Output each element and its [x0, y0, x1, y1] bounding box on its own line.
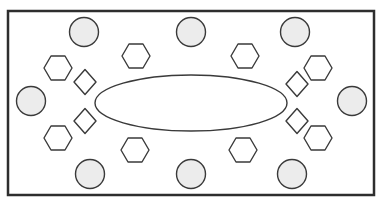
hexagon-shape-3 [231, 44, 259, 68]
hexagon-shape-8 [304, 126, 332, 150]
circle-shape-8 [278, 160, 307, 189]
circle-shape-3 [281, 18, 310, 47]
circle-shape-6 [76, 160, 105, 189]
circle-shape-2 [177, 18, 206, 47]
hexagon-shape-6 [121, 138, 149, 162]
circle-shape-7 [177, 160, 206, 189]
circle-shape-1 [70, 18, 99, 47]
central-ellipse-table [95, 75, 287, 131]
circle-shape-4 [17, 87, 46, 116]
hexagon-shape-7 [229, 138, 257, 162]
hexagon-shape-4 [304, 56, 332, 80]
seating-diagram [0, 0, 389, 205]
hexagon-shape-5 [44, 126, 72, 150]
circle-shape-5 [338, 87, 367, 116]
hexagon-shape-2 [122, 44, 150, 68]
hexagon-shape-1 [44, 56, 72, 80]
